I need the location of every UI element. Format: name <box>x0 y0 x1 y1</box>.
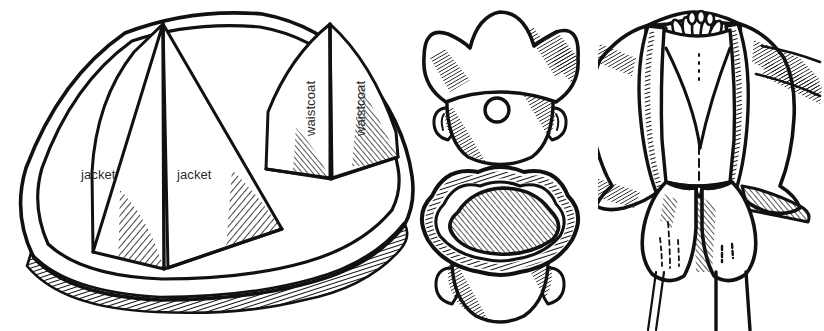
leg-left-outer <box>648 272 656 330</box>
line-art-canvas <box>0 0 824 331</box>
label-jacket-right: jacket <box>177 167 212 182</box>
label-waistcoat-right: waistcoat <box>353 81 368 136</box>
leg-left-inner <box>656 272 664 330</box>
hat-front-view-group <box>424 12 592 172</box>
label-jacket-left: jacket <box>81 167 116 182</box>
label-waistcoat-left: waistcoat <box>303 81 318 136</box>
costume-pattern-figure: jacket jacket waistcoat waistcoat <box>0 0 824 331</box>
waistcoat-body <box>661 30 734 186</box>
breeches-right-stitch-b <box>732 244 733 258</box>
hat-top-view-group <box>422 167 578 330</box>
costume-figure-group <box>591 11 822 330</box>
leg-right-inner <box>746 272 750 330</box>
gore-seam-jacket <box>163 24 164 269</box>
brim-pattern-group <box>21 13 413 313</box>
gore-seam-waistcoat <box>330 24 331 179</box>
hat-front-cockade <box>485 98 509 122</box>
